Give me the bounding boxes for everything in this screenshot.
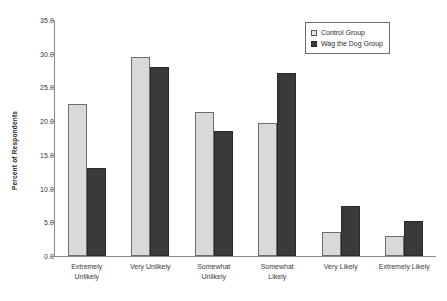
x-axis-tick-label: Extremely Likely (373, 262, 437, 272)
plot-area (55, 20, 436, 256)
legend-swatch-icon-wag (311, 41, 317, 47)
y-axis-tick-label: 25.0 (20, 84, 54, 91)
bar (195, 112, 214, 256)
legend-label-wag: Wag the Dog Group (321, 38, 383, 49)
bar (214, 131, 233, 256)
y-axis-tick-label: 10.0 (20, 185, 54, 192)
y-axis-tick-mark (50, 222, 54, 223)
x-axis-tick-label-line: Unlikely (55, 272, 119, 282)
bar (150, 67, 169, 256)
x-axis-tick-label-line: Unlikely (182, 272, 246, 282)
y-axis-tick-mark (50, 87, 54, 88)
y-axis-tick-mark (50, 155, 54, 156)
y-axis-tick-mark (50, 121, 54, 122)
x-axis-tick-label: ExtremelyUnlikely (55, 262, 119, 281)
x-axis-tick-label-line: Somewhat (246, 262, 310, 272)
legend-swatch-icon-control (311, 30, 317, 36)
bar (258, 123, 277, 256)
bar (322, 232, 341, 256)
bar (131, 57, 150, 256)
x-axis-line (54, 256, 436, 257)
bar-group (309, 20, 373, 256)
y-axis-tick-label: 35.0 (20, 17, 54, 24)
legend: Control Group Wag the Dog Group (305, 22, 390, 54)
y-axis-tick-mark (50, 189, 54, 190)
y-axis-tick-mark (50, 20, 54, 21)
x-axis-tick-label-line: Likely (246, 272, 310, 282)
bar-group (246, 20, 310, 256)
bar (385, 236, 404, 256)
legend-item-control: Control Group (311, 27, 383, 38)
y-axis-tick-label: 0.0 (20, 253, 54, 260)
y-axis-tick-mark (50, 54, 54, 55)
x-axis-tick-label-line: Somewhat (182, 262, 246, 272)
bar (87, 168, 106, 256)
bar-group (373, 20, 437, 256)
bar (341, 206, 360, 256)
x-axis-tick-label: SomewhatUnlikely (182, 262, 246, 281)
y-axis-tick-label: 30.0 (20, 50, 54, 57)
x-axis-tick-label-line: Very Likely (309, 262, 373, 272)
x-axis-tick-label-line: Extremely Likely (373, 262, 437, 272)
bar-group (182, 20, 246, 256)
bar (68, 104, 87, 256)
x-axis-tick-label: Very Unlikely (119, 262, 183, 272)
bar-group (55, 20, 119, 256)
y-axis-tick-label: 20.0 (20, 118, 54, 125)
x-axis-tick-label-line: Extremely (55, 262, 119, 272)
x-axis-tick-label-line: Very Unlikely (119, 262, 183, 272)
y-axis-tick-labels: 35.030.025.020.015.010.05.00.0 (10, 0, 54, 301)
y-axis-tick-mark (50, 256, 54, 257)
legend-item-wag: Wag the Dog Group (311, 38, 383, 49)
bar-group (119, 20, 183, 256)
y-axis-tick-label: 5.0 (20, 219, 54, 226)
x-axis-tick-label: SomewhatLikely (246, 262, 310, 281)
bar (277, 73, 296, 256)
bar-chart: Percent of Respondents 35.030.025.020.01… (0, 0, 447, 301)
legend-label-control: Control Group (321, 27, 365, 38)
y-axis-tick-label: 15.0 (20, 151, 54, 158)
x-axis-tick-label: Very Likely (309, 262, 373, 272)
bar (404, 221, 423, 256)
